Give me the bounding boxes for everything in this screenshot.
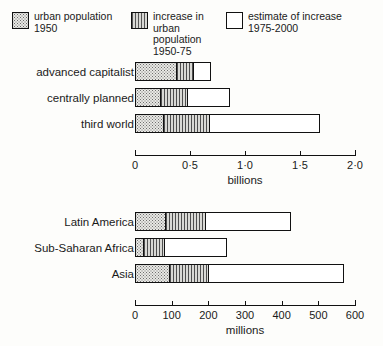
bar-segment-increase-1950-75: [144, 239, 166, 256]
population-chart-figure: urban population 1950 increase in urban …: [0, 0, 383, 346]
axis-tick: [208, 301, 209, 306]
axis-tick-label: 300: [236, 309, 254, 321]
axis-tick-label: 200: [199, 309, 217, 321]
bar-row-label: Latin America: [64, 216, 134, 228]
bar-segment-estimate-1975-2000: [206, 213, 290, 230]
axis-tick: [135, 300, 136, 306]
axis-tick: [318, 301, 319, 306]
axis-tick-label: 500: [309, 309, 327, 321]
bar-segment-estimate-1975-2000: [209, 265, 343, 282]
axis-tick: [355, 300, 356, 306]
stacked-bar: [135, 238, 227, 257]
axis-tick-label: 0: [132, 309, 138, 321]
x-axis-millions: 0100200300400500600millions: [0, 305, 383, 339]
bar-segment-urban-1950: [136, 265, 170, 282]
axis-tick: [172, 301, 173, 306]
axis-tick-label: 600: [346, 309, 364, 321]
axis-tick-label: 100: [162, 309, 180, 321]
chart-millions: Latin America Sub-Saharan Africa Asia: [0, 0, 383, 346]
axis-title: millions: [226, 324, 264, 336]
bar-segment-increase-1950-75: [166, 213, 207, 230]
bar-row: Sub-Saharan Africa: [0, 238, 383, 258]
bar-segment-increase-1950-75: [170, 265, 210, 282]
bar-row: Latin America: [0, 212, 383, 232]
bar-row-label: Sub-Saharan Africa: [34, 242, 134, 254]
bar-segment-estimate-1975-2000: [165, 239, 225, 256]
axis-tick: [282, 301, 283, 306]
bar-row: Asia: [0, 264, 383, 284]
stacked-bar: [135, 212, 291, 231]
bar-row-label: Asia: [112, 268, 134, 280]
bar-segment-urban-1950: [136, 213, 166, 230]
axis-tick: [245, 301, 246, 306]
axis-tick-label: 400: [272, 309, 290, 321]
bar-segment-urban-1950: [136, 239, 144, 256]
stacked-bar: [135, 264, 344, 283]
